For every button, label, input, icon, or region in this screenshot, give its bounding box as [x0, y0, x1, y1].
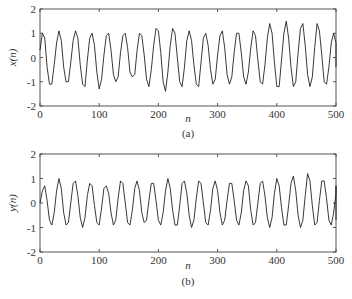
y-tick-label: -1 [27, 222, 36, 234]
series-line-b [40, 174, 336, 228]
y-tick-label: 1 [31, 173, 37, 185]
panel-a: 0100200300400500-2-1012nx(n)(a) [6, 3, 345, 140]
x-axis-label: n [185, 259, 191, 271]
x-tick-label: 400 [269, 108, 286, 120]
x-tick-label: 0 [37, 108, 43, 120]
panel-b: 0100200300400500-2-1012ny(n)(b) [6, 148, 345, 288]
y-tick-label: -2 [27, 100, 36, 112]
x-tick-label: 500 [328, 108, 345, 120]
x-tick-label: 500 [328, 254, 345, 266]
y-tick-label: -1 [27, 76, 36, 88]
x-tick-label: 200 [150, 254, 167, 266]
series-line-a [40, 21, 336, 91]
y-tick-label: -2 [27, 246, 36, 258]
x-tick-label: 300 [209, 108, 226, 120]
y-axis-label: y(n) [6, 194, 19, 213]
x-tick-label: 300 [209, 254, 226, 266]
y-tick-label: 0 [31, 52, 37, 64]
x-tick-label: 200 [150, 108, 167, 120]
y-tick-label: 1 [31, 27, 37, 39]
x-axis-label: n [185, 112, 191, 124]
y-tick-label: 2 [31, 3, 37, 15]
x-tick-label: 0 [37, 254, 43, 266]
x-tick-label: 100 [91, 254, 108, 266]
y-tick-label: 2 [31, 148, 37, 160]
panel-caption: (b) [182, 275, 195, 288]
x-tick-label: 100 [91, 108, 108, 120]
figure: 0100200300400500-2-1012nx(n)(a) 01002003… [0, 0, 352, 299]
y-tick-label: 0 [31, 197, 37, 209]
y-axis-label: x(n) [6, 48, 19, 67]
axes-frame [40, 9, 336, 106]
x-tick-label: 400 [269, 254, 286, 266]
panel-caption: (a) [182, 127, 195, 140]
